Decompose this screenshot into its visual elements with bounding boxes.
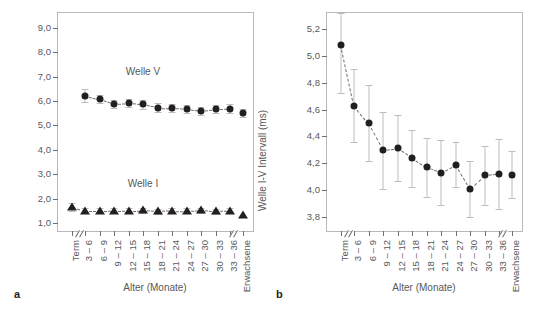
- data-point: [167, 206, 177, 214]
- x-axis-tick-mark: [243, 231, 244, 236]
- y-axis-tick-mark: [53, 174, 58, 175]
- panel-b-plot-frame: 3,84,04,24,44,64,85,05,2Term3 – 66 – 99 …: [326, 12, 523, 232]
- x-axis-tick-mark: [398, 231, 399, 236]
- y-axis-tick-mark: [53, 28, 58, 29]
- error-bar-cap: [351, 69, 358, 70]
- y-axis-tick-label: 3,0: [38, 170, 51, 180]
- y-axis-tick-label: 5,0: [307, 51, 320, 61]
- y-axis-tick-mark: [53, 223, 58, 224]
- y-axis-tick-label: 5,0: [38, 121, 51, 131]
- x-axis-tick-label: 6 – 9: [368, 240, 378, 261]
- data-point: [351, 102, 358, 109]
- data-point: [140, 101, 147, 108]
- data-point: [111, 100, 118, 107]
- data-point: [153, 207, 163, 215]
- y-axis-tick-mark: [322, 29, 327, 30]
- error-bar-cap: [509, 198, 516, 199]
- x-axis-tick-label: 30 – 33: [215, 240, 225, 272]
- data-point: [82, 92, 89, 99]
- series-connector-line: [340, 45, 354, 106]
- y-axis-tick-label: 9,0: [38, 23, 51, 33]
- data-point: [467, 185, 474, 192]
- data-point: [481, 172, 488, 179]
- panel-b-y-axis-title: Welle I-V Intervall (ms): [257, 110, 268, 211]
- x-axis-tick-label: 18 – 21: [426, 240, 436, 272]
- error-bar-cap: [409, 187, 416, 188]
- error-bar-cap: [380, 112, 387, 113]
- data-point: [169, 105, 176, 112]
- x-axis-tick-label: 3 – 6: [353, 240, 363, 261]
- error-bar-cap: [183, 113, 190, 114]
- error-bar-cap: [394, 115, 401, 116]
- panel-a-plot-frame: 1,02,03,04,05,06,07,08,09,0Term3 – 66 – …: [57, 12, 254, 232]
- x-axis-tick-label: 12 – 15: [128, 240, 138, 272]
- y-axis-tick-label: 7,0: [38, 72, 51, 82]
- x-axis-tick-mark: [512, 231, 513, 236]
- error-bar-cap: [365, 161, 372, 162]
- error-bar-cap: [452, 187, 459, 188]
- error-bar-cap: [227, 113, 234, 114]
- panel-b: Welle I-V Intervall (ms) 3,84,04,24,44,6…: [268, 0, 535, 310]
- data-point: [109, 206, 119, 214]
- error-bar-cap: [365, 85, 372, 86]
- x-axis-tick-mark: [485, 231, 486, 236]
- x-axis-tick-mark: [470, 231, 471, 236]
- x-axis-break-left: [345, 230, 355, 238]
- data-point: [212, 106, 219, 113]
- y-axis-tick-mark: [53, 150, 58, 151]
- error-bar-cap: [496, 139, 503, 140]
- x-axis-tick-label: Term: [340, 240, 350, 261]
- error-bar-cap: [82, 102, 89, 103]
- y-axis-tick-label: 4,4: [307, 132, 320, 142]
- data-point: [80, 207, 90, 215]
- error-bar-cap: [198, 115, 205, 116]
- error-bar-cap: [338, 13, 345, 14]
- data-point: [196, 206, 206, 214]
- x-axis-tick-mark: [216, 231, 217, 236]
- y-axis-tick-mark: [322, 83, 327, 84]
- x-axis-tick-mark: [100, 231, 101, 236]
- data-point: [509, 172, 516, 179]
- error-bar-cap: [423, 197, 430, 198]
- error-bar-cap: [467, 161, 474, 162]
- x-axis-tick-label: 27 – 30: [469, 240, 479, 272]
- series-annotation: Welle I: [128, 178, 158, 189]
- error-bar-cap: [380, 189, 387, 190]
- y-axis-tick-label: 4,0: [307, 185, 320, 195]
- y-axis-tick-mark: [53, 77, 58, 78]
- x-axis-tick-label: Erwachsene: [242, 240, 252, 292]
- x-axis-tick-mark: [129, 231, 130, 236]
- data-point: [96, 96, 103, 103]
- error-bar-cap: [481, 205, 488, 206]
- y-axis-tick-label: 5,2: [307, 24, 320, 34]
- x-axis-tick-label: 18 – 21: [157, 240, 167, 272]
- x-axis-tick-label: 3 – 6: [84, 240, 94, 261]
- error-bar-cap: [212, 113, 219, 114]
- y-axis-tick-mark: [322, 163, 327, 164]
- y-axis-tick-mark: [322, 217, 327, 218]
- y-axis-tick-mark: [53, 125, 58, 126]
- data-point: [138, 206, 148, 214]
- x-axis-tick-mark: [441, 231, 442, 236]
- x-axis-tick-mark: [114, 231, 115, 236]
- x-axis-tick-label: 24 – 27: [455, 240, 465, 272]
- data-point: [182, 207, 192, 215]
- x-axis-tick-mark: [427, 231, 428, 236]
- y-axis-tick-label: 2,0: [38, 194, 51, 204]
- data-point: [365, 120, 372, 127]
- error-bar-cap: [438, 140, 445, 141]
- data-point: [394, 145, 401, 152]
- error-bar-cap: [409, 130, 416, 131]
- y-axis-tick-label: 4,0: [38, 145, 51, 155]
- data-point: [125, 100, 132, 107]
- data-point: [227, 105, 234, 112]
- error-bar-cap: [394, 181, 401, 182]
- panel-a-label: a: [14, 288, 20, 300]
- x-axis-tick-mark: [201, 231, 202, 236]
- y-axis-tick-mark: [53, 101, 58, 102]
- data-point: [95, 207, 105, 215]
- x-axis-tick-label: 12 – 15: [397, 240, 407, 272]
- x-axis-tick-mark: [383, 231, 384, 236]
- x-axis-tick-label: 24 – 27: [186, 240, 196, 272]
- x-axis-tick-label: 15 – 18: [142, 240, 152, 272]
